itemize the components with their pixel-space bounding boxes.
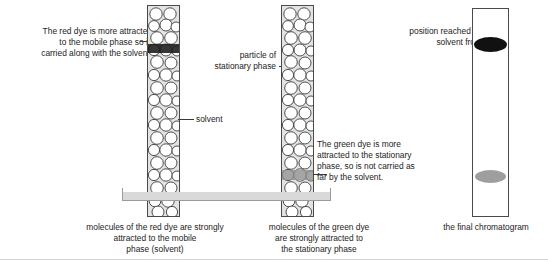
green-dye-column [281,5,314,217]
green-dye-annotation: The green dye is more attracted to the s… [317,139,442,183]
solvent-leader-line [178,119,194,120]
chromatogram-caption: the final chromatogram [424,222,548,233]
green-dye-caption: molecules of the green dye are strongly … [238,222,400,255]
green-dye-band [282,170,313,180]
stationary-particle-annotation: particle of stationary phase [196,50,276,72]
scan-artifact-line [0,259,548,260]
trough-baseline [122,200,331,201]
final-chromatogram-strip [472,8,509,217]
green-dye-column-packing [282,6,313,216]
solvent-front-annotation: position reached by solvent front [378,26,482,48]
red-dye-column [147,5,180,217]
red-dye-caption: molecules of the red dye are strongly at… [64,222,246,255]
red-dye-column-packing [148,6,179,216]
red-dye-annotation: The red dye is more attracted to the mob… [6,26,152,59]
solvent-label: solvent [196,114,256,125]
green-dye-spot [475,170,506,183]
solvent-front-spot [474,37,507,52]
red-dye-band [148,44,179,53]
chromatography-diagram: The red dye is more attracted to the mob… [0,0,548,262]
